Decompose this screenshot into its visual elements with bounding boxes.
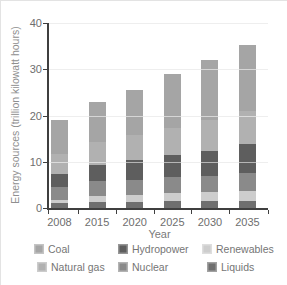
x-category-label-2020: 2020 — [116, 216, 154, 228]
y-tick-label-20: 20 — [16, 111, 42, 122]
bar-2025-renewables — [164, 193, 181, 201]
bar-2020-liquids — [126, 202, 143, 208]
bar-2015-hydropower — [89, 165, 106, 181]
y-tick-label-10: 10 — [16, 157, 42, 168]
legend-label-liquids: Liquids — [221, 261, 254, 273]
gridline-overlay-10 — [48, 162, 268, 163]
legend-swatch-hydropower — [118, 244, 128, 254]
legend-swatch-natural-gas — [37, 262, 47, 272]
x-category-label-2030: 2030 — [191, 216, 229, 228]
y-tick-30 — [43, 69, 47, 70]
gridline-overlay-40 — [48, 23, 268, 24]
x-category-label-2035: 2035 — [229, 216, 267, 228]
x-tick-2 — [116, 210, 117, 214]
x-axis-title: Year — [48, 228, 271, 240]
bar-2025-nuclear — [164, 177, 181, 193]
x-category-label-2015: 2015 — [78, 216, 116, 228]
x-tick-0 — [48, 210, 49, 214]
y-axis-line — [47, 23, 49, 209]
bar-2020-hydropower — [126, 160, 143, 180]
x-category-label-2025: 2025 — [153, 216, 191, 228]
legend-label-renewables: Renewables — [216, 243, 274, 255]
gridline-overlay-30 — [48, 69, 268, 70]
bar-2025-coal — [164, 74, 181, 128]
y-tick-0 — [43, 208, 47, 209]
legend-swatch-nuclear — [118, 262, 128, 272]
bar-2025-natural-gas — [164, 128, 181, 156]
x-category-label-2008: 2008 — [41, 216, 79, 228]
legend-label-natural-gas: Natural gas — [51, 261, 105, 273]
bar-2030-nuclear — [201, 176, 218, 193]
bar-2025-hydropower — [164, 155, 181, 177]
x-axis-line — [47, 208, 268, 210]
legend-label-hydropower: Hydropower — [132, 243, 189, 255]
bar-2030-renewables — [201, 192, 218, 201]
bar-2030-liquids — [201, 201, 218, 208]
bar-2020-natural-gas — [126, 135, 143, 160]
bar-2020-nuclear — [126, 180, 143, 195]
bar-2015-nuclear — [89, 181, 106, 196]
x-tick-4 — [191, 210, 192, 214]
bar-2030-hydropower — [201, 151, 218, 176]
y-tick-40 — [43, 23, 47, 24]
bar-2035-nuclear — [239, 173, 256, 191]
bar-2008-natural-gas — [51, 154, 68, 174]
bar-2015-renewables — [89, 196, 106, 202]
bar-2020-coal — [126, 90, 143, 135]
bar-2015-coal — [89, 102, 106, 142]
bar-2035-coal — [239, 45, 256, 111]
y-tick-10 — [43, 162, 47, 163]
y-tick-label-40: 40 — [16, 18, 42, 29]
energy-sources-stacked-bar-chart: Energy sources (trillion kilowatt hours)… — [0, 0, 287, 285]
legend-label-coal: Coal — [48, 243, 70, 255]
bar-2035-renewables — [239, 191, 256, 201]
bar-2008-hydropower — [51, 174, 68, 187]
x-tick-6 — [268, 210, 269, 214]
bar-2008-renewables — [51, 200, 68, 203]
legend-swatch-renewables — [202, 244, 212, 254]
legend-swatch-coal — [34, 244, 44, 254]
y-tick-label-0: 0 — [16, 203, 42, 214]
bar-2025-liquids — [164, 201, 181, 208]
legend-label-nuclear: Nuclear — [132, 261, 168, 273]
x-tick-1 — [78, 210, 79, 214]
x-tick-3 — [154, 210, 155, 214]
bar-2035-hydropower — [239, 144, 256, 173]
legend-swatch-liquids — [207, 262, 217, 272]
bar-2008-coal — [51, 120, 68, 154]
bar-2008-nuclear — [51, 187, 68, 200]
bar-2030-natural-gas — [201, 120, 218, 151]
y-tick-20 — [43, 116, 47, 117]
x-tick-5 — [229, 210, 230, 214]
bar-2020-renewables — [126, 195, 143, 202]
y-tick-label-30: 30 — [16, 64, 42, 75]
bar-2035-liquids — [239, 201, 256, 208]
gridline-overlay-20 — [48, 116, 268, 117]
